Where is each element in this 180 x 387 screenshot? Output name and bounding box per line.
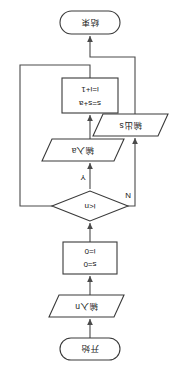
node-accumulate-line1: s=s+a <box>79 99 101 108</box>
node-decision-label: i<n <box>85 202 96 211</box>
node-start[interactable]: 开始 <box>60 338 120 360</box>
branch-label-no: N <box>125 191 131 200</box>
node-end[interactable]: 结束 <box>60 11 120 34</box>
flowchart-canvas: 开始 输入n s=0 i=0 i<n Y N <box>0 0 180 387</box>
node-input-a[interactable]: 输入a <box>42 139 124 161</box>
node-init-line1: s=0 <box>83 260 97 269</box>
node-init-line2: i=0 <box>84 247 95 256</box>
node-output-s-label: 输出s <box>119 121 141 131</box>
branch-label-yes: Y <box>80 173 86 182</box>
node-accumulate-line2: i=i+1 <box>81 85 99 94</box>
node-start-label: 开始 <box>81 344 99 354</box>
flowchart-rotated-group: 开始 输入n s=0 i=0 i<n Y N <box>0 0 180 387</box>
node-init[interactable]: s=0 i=0 <box>63 242 117 274</box>
node-input-a-label: 输入a <box>71 146 94 156</box>
node-decision[interactable]: i<n <box>52 191 128 221</box>
node-end-label: 结束 <box>81 18 99 28</box>
node-input-n[interactable]: 输入n <box>49 295 124 317</box>
flowchart-svg: 开始 输入n s=0 i=0 i<n Y N <box>0 0 180 387</box>
node-output-s[interactable]: 输出s <box>93 114 168 136</box>
node-input-n-label: 输入n <box>75 302 98 312</box>
node-accumulate[interactable]: s=s+a i=i+1 <box>62 78 118 113</box>
